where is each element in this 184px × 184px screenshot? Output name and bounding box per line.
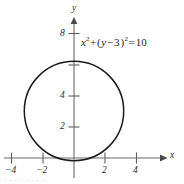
graph-figure: −4 −2 2 4 2 4 8 x y x2+(y−3)2=10 · · · ·… bbox=[0, 0, 184, 184]
x-tick-label-4: 4 bbox=[133, 166, 138, 176]
coordinate-plane bbox=[0, 0, 184, 184]
y-axis-arrow-icon bbox=[71, 17, 78, 24]
equation-annotation: x2+(y−3)2=10 bbox=[81, 37, 147, 48]
y-tick-label-8: 8 bbox=[60, 29, 65, 39]
x-tick-label-minus2: −2 bbox=[36, 166, 47, 176]
x-tick-label-minus4: −4 bbox=[5, 166, 16, 176]
x-axis-arrow-icon bbox=[160, 154, 168, 161]
x-tick-label-2: 2 bbox=[102, 166, 107, 176]
y-axis-label: y bbox=[72, 4, 76, 14]
equation-plus-operator: + bbox=[89, 36, 96, 48]
y-tick-label-4: 4 bbox=[60, 91, 65, 101]
page-edge-artifact: · · · ·· · ··· · ·· bbox=[0, 176, 184, 184]
x-axis-label: x bbox=[170, 151, 174, 161]
equation-right-hand-side: 10 bbox=[135, 36, 147, 48]
y-tick-label-2: 2 bbox=[60, 122, 65, 132]
equation-shift-value: 3 bbox=[113, 36, 120, 48]
